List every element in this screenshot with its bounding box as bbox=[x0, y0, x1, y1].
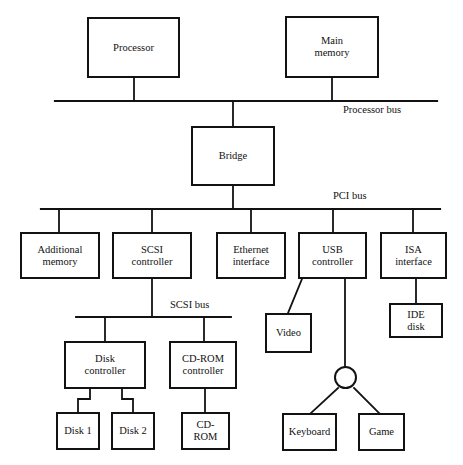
node-cdrom-label: CD- ROM bbox=[194, 419, 218, 443]
node-processor-label: Processor bbox=[113, 42, 154, 54]
scsi-bus-label: SCSI bus bbox=[170, 299, 209, 310]
node-disk-1-label: Disk 1 bbox=[64, 425, 92, 437]
node-usb-controller-label: USB controller bbox=[312, 244, 353, 268]
node-disk-controller[interactable]: Disk controller bbox=[64, 341, 146, 389]
node-ide-disk[interactable]: IDE disk bbox=[389, 303, 443, 338]
node-bridge-label: Bridge bbox=[219, 150, 248, 162]
hub-keyboard-wire bbox=[311, 388, 338, 413]
node-disk-1[interactable]: Disk 1 bbox=[56, 412, 100, 450]
node-keyboard[interactable]: Keyboard bbox=[282, 413, 337, 451]
usb-hub-node[interactable] bbox=[334, 366, 357, 389]
node-bridge[interactable]: Bridge bbox=[191, 126, 275, 186]
pci-bus-label: PCI bus bbox=[333, 190, 367, 201]
node-main-memory-label: Main memory bbox=[315, 35, 350, 59]
block-diagram: Processor Main memory Processor bus Brid… bbox=[0, 0, 463, 465]
node-scsi-controller-label: SCSI controller bbox=[132, 244, 173, 268]
node-additional-memory[interactable]: Additional memory bbox=[20, 232, 100, 279]
node-ethernet-interface-label: Ethernet interface bbox=[233, 244, 270, 268]
node-game[interactable]: Game bbox=[358, 413, 405, 451]
node-game-label: Game bbox=[369, 426, 394, 438]
node-isa-interface[interactable]: ISA interface bbox=[380, 232, 447, 279]
disk2-elbow-wire bbox=[122, 389, 133, 412]
node-ide-disk-label: IDE disk bbox=[407, 309, 425, 333]
node-cdrom-controller-label: CD-ROM controller bbox=[182, 353, 224, 377]
node-main-memory[interactable]: Main memory bbox=[285, 16, 379, 78]
node-isa-interface-label: ISA interface bbox=[395, 244, 432, 268]
processor-bus-label: Processor bus bbox=[343, 104, 401, 115]
hub-game-wire bbox=[354, 388, 379, 413]
node-cdrom[interactable]: CD- ROM bbox=[181, 412, 230, 450]
node-disk-controller-label: Disk controller bbox=[85, 353, 126, 377]
node-processor[interactable]: Processor bbox=[87, 17, 180, 78]
usb-video-diagonal-wire bbox=[288, 279, 302, 313]
node-disk-2[interactable]: Disk 2 bbox=[111, 412, 155, 450]
node-usb-controller[interactable]: USB controller bbox=[298, 232, 367, 279]
node-video[interactable]: Video bbox=[265, 313, 312, 353]
node-keyboard-label: Keyboard bbox=[289, 426, 330, 438]
node-scsi-controller[interactable]: SCSI controller bbox=[112, 232, 192, 279]
disk1-elbow-wire bbox=[78, 389, 90, 412]
node-ethernet-interface[interactable]: Ethernet interface bbox=[216, 232, 286, 279]
node-video-label: Video bbox=[276, 327, 301, 339]
node-additional-memory-label: Additional memory bbox=[38, 244, 83, 268]
node-disk-2-label: Disk 2 bbox=[119, 425, 147, 437]
node-cdrom-controller[interactable]: CD-ROM controller bbox=[169, 341, 237, 389]
